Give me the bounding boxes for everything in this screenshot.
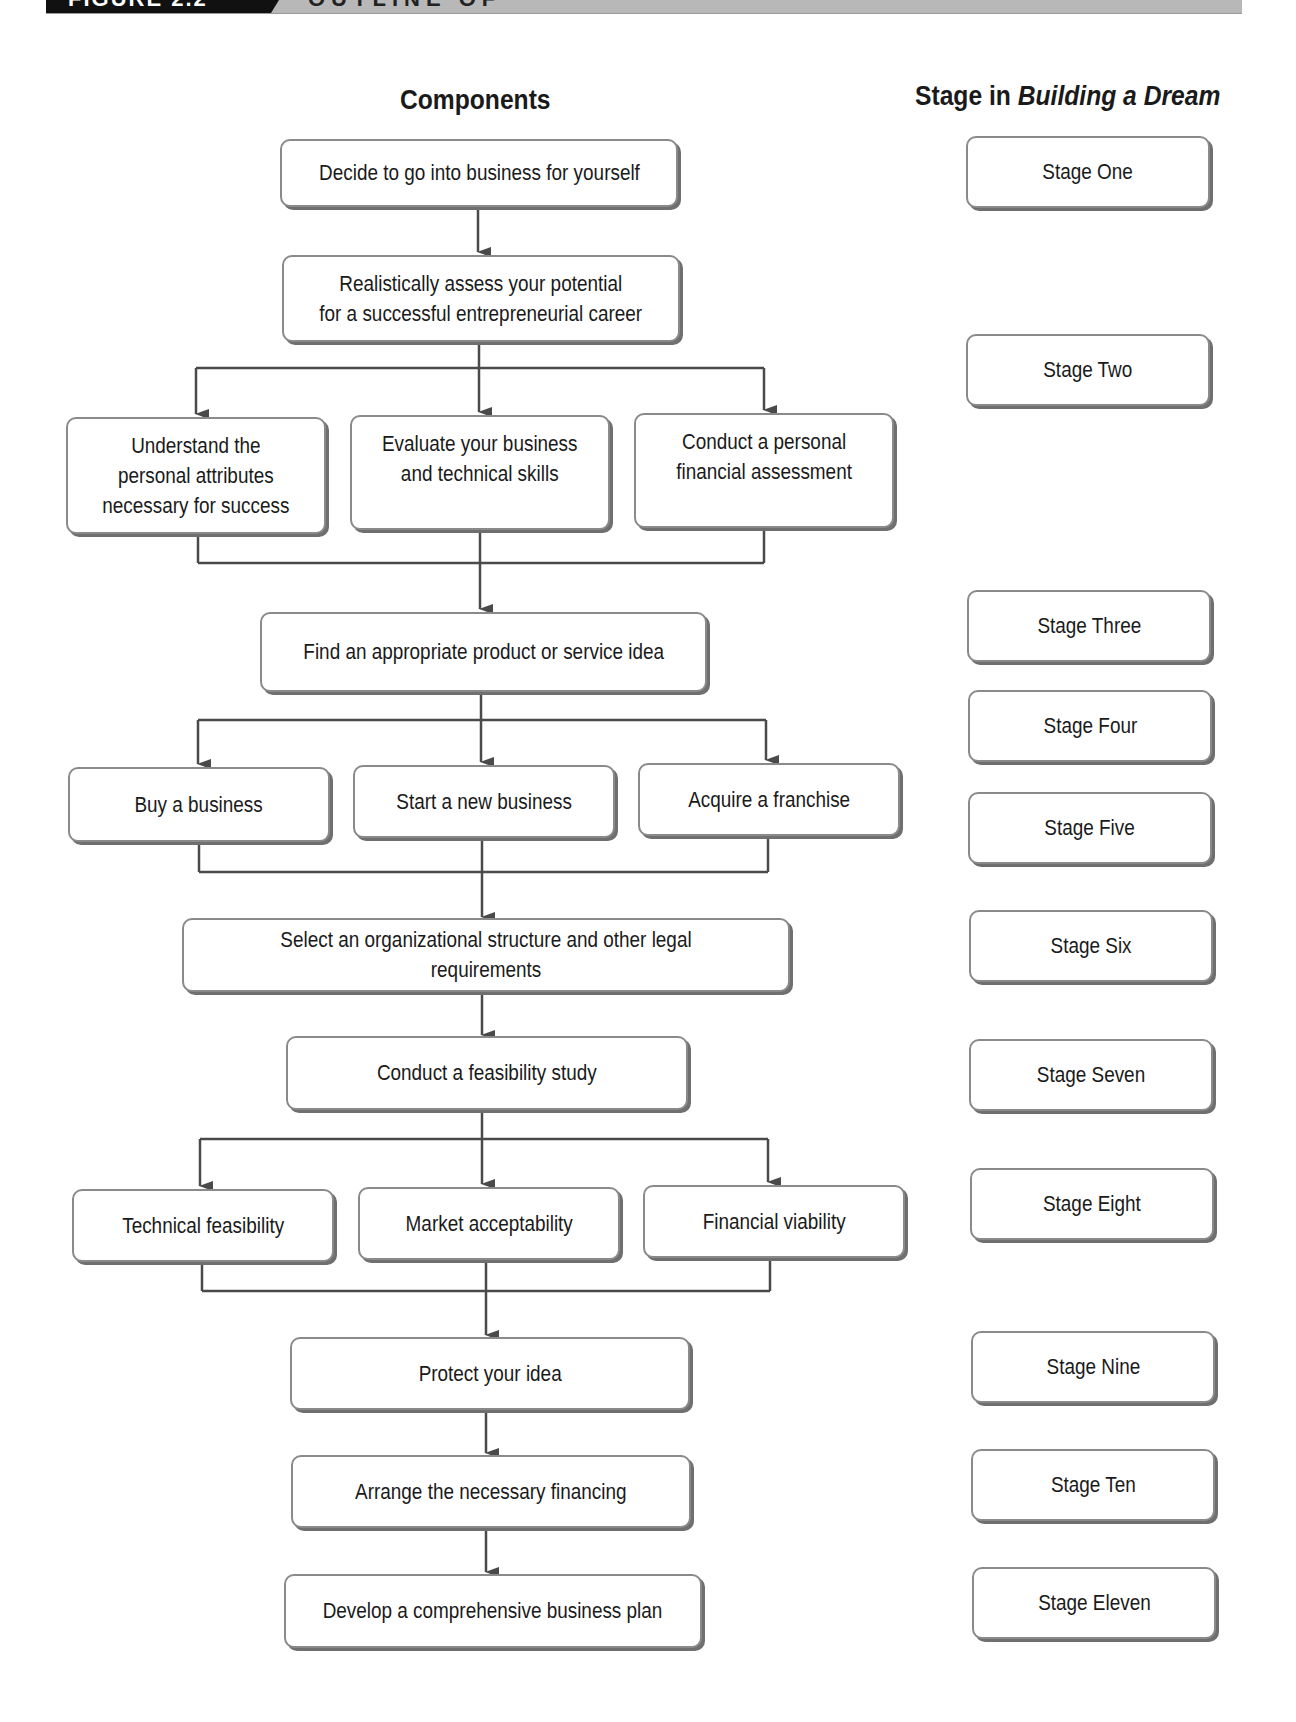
stage-label: Stage Five — [1045, 813, 1135, 843]
stage-heading-italic: Building a Dream — [1018, 80, 1221, 111]
component-technical-label: Technical feasibility — [122, 1211, 284, 1241]
stage-label: Stage Two — [1043, 355, 1132, 385]
component-skills-label: Evaluate your business and technical ski… — [382, 429, 578, 489]
component-protect-label: Protect your idea — [418, 1359, 561, 1389]
component-technical: Technical feasibility — [72, 1189, 334, 1262]
component-assess-label: Realistically assess your potential for … — [320, 269, 643, 329]
component-market-label: Market acceptability — [405, 1209, 572, 1239]
component-idea: Find an appropriate product or service i… — [260, 612, 707, 692]
component-skills: Evaluate your business and technical ski… — [350, 415, 610, 530]
stage-box-10: Stage Ten — [971, 1449, 1215, 1521]
stage-label: Stage Six — [1050, 931, 1131, 961]
component-feasibility: Conduct a feasibility study — [286, 1036, 688, 1110]
component-start-label: Start a new business — [396, 787, 572, 817]
stage-box-3: Stage Three — [967, 590, 1211, 662]
component-market: Market acceptability — [358, 1187, 620, 1260]
stage-label: Stage Nine — [1046, 1352, 1140, 1382]
component-protect: Protect your idea — [290, 1337, 690, 1410]
component-financial-assessment: Conduct a personal financial assessment — [634, 413, 894, 528]
stage-box-2: Stage Two — [966, 334, 1210, 406]
stage-label: Stage Eight — [1043, 1189, 1141, 1219]
stage-box-7: Stage Seven — [969, 1039, 1213, 1111]
stage-box-11: Stage Eleven — [972, 1567, 1216, 1639]
stage-box-5: Stage Five — [968, 792, 1212, 864]
stage-label: Stage Four — [1043, 711, 1137, 741]
figure-label: FIGURE 2.2 — [68, 0, 208, 12]
component-buy-label: Buy a business — [135, 790, 263, 820]
stage-box-1: Stage One — [966, 136, 1210, 208]
stage-label: Stage Ten — [1051, 1470, 1136, 1500]
components-heading: Components — [400, 84, 551, 116]
stage-label: Stage Three — [1037, 611, 1141, 641]
stage-label: Stage Seven — [1037, 1060, 1145, 1090]
component-attributes-label: Understand the personal attributes neces… — [102, 431, 289, 521]
component-franchise: Acquire a franchise — [638, 763, 900, 836]
component-feasibility-label: Conduct a feasibility study — [377, 1058, 597, 1088]
stage-box-6: Stage Six — [969, 910, 1213, 982]
component-viability: Financial viability — [643, 1185, 905, 1258]
component-structure: Select an organizational structure and o… — [182, 918, 790, 992]
stage-heading: Stage in Building a Dream — [915, 80, 1220, 112]
component-financing-label: Arrange the necessary financing — [355, 1477, 626, 1507]
stage-box-4: Stage Four — [968, 690, 1212, 762]
stage-label: Stage One — [1043, 157, 1133, 187]
component-viability-label: Financial viability — [702, 1207, 845, 1237]
stage-box-8: Stage Eight — [970, 1168, 1214, 1240]
stage-heading-prefix: Stage in — [915, 80, 1018, 111]
figure-label-wedge — [271, 0, 279, 13]
component-start: Start a new business — [353, 765, 615, 838]
component-decide-label: Decide to go into business for yourself — [319, 158, 640, 188]
component-buy: Buy a business — [68, 767, 330, 842]
figure-header-bar: FIGURE 2.2 OUTLINE OF — [46, 0, 1242, 14]
component-franchise-label: Acquire a franchise — [688, 785, 850, 815]
component-decide: Decide to go into business for yourself — [280, 139, 678, 207]
figure-title: OUTLINE OF — [308, 0, 501, 12]
component-structure-label: Select an organizational structure and o… — [226, 925, 745, 985]
stage-label: Stage Eleven — [1038, 1588, 1151, 1618]
component-plan-label: Develop a comprehensive business plan — [323, 1596, 663, 1626]
component-financial-assessment-label: Conduct a personal financial assessment — [676, 427, 852, 487]
component-attributes: Understand the personal attributes neces… — [66, 417, 326, 534]
component-idea-label: Find an appropriate product or service i… — [303, 637, 664, 667]
component-financing: Arrange the necessary financing — [291, 1455, 691, 1528]
component-assess: Realistically assess your potential for … — [282, 255, 680, 342]
stage-box-9: Stage Nine — [971, 1331, 1215, 1403]
component-plan: Develop a comprehensive business plan — [284, 1574, 702, 1648]
